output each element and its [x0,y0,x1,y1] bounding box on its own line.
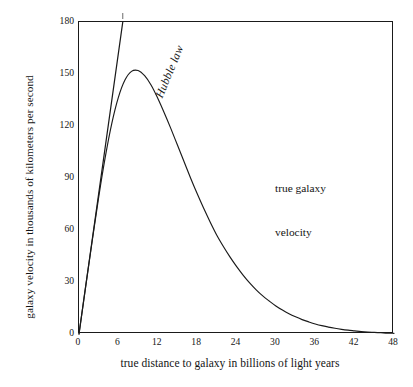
annotation-line-1: true galaxy [275,181,326,196]
y-axis-tick-labels: 180 150 120 90 60 30 0 [48,0,74,387]
x-tick-label: 36 [299,337,329,347]
x-tick-label: 24 [221,337,251,347]
series-group [79,22,394,334]
x-tick-label: 0 [63,337,93,347]
y-tick-label: 90 [50,172,74,182]
x-axis-tick-labels: 0 6 12 18 24 30 36 42 48 [78,337,393,351]
true-galaxy-velocity-curve [79,70,394,334]
x-tick-label: 30 [260,337,290,347]
x-tick-label: 18 [181,337,211,347]
plot-svg [79,22,394,334]
x-tick-label: 6 [102,337,132,347]
x-axis-title: true distance to galaxy in billions of l… [60,357,400,369]
x-tick-label: 12 [142,337,172,347]
true-galaxy-velocity-annotation: true galaxy velocity [275,152,326,268]
x-tick-label: 42 [339,337,369,347]
y-tick-label: 180 [50,16,74,26]
annotation-line-2: velocity [275,225,326,240]
y-tick-label: 30 [50,276,74,286]
y-axis-title: galaxy velocity in thousands of kilomete… [18,27,40,367]
y-tick-label: 120 [50,120,74,130]
chart-figure: galaxy velocity in thousands of kilomete… [0,0,413,387]
y-tick-label: 60 [50,224,74,234]
plot-area: Hubble law true galaxy velocity [78,21,393,333]
y-tick-label: 150 [50,68,74,78]
x-tick-label: 48 [378,337,408,347]
